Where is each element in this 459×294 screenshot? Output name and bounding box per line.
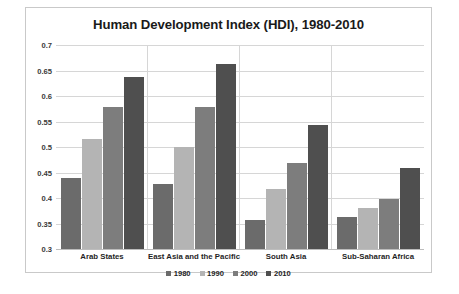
x-axis-category-label: East Asia and the Pacific: [148, 252, 240, 261]
bar[interactable]: [358, 208, 378, 249]
bar-group-bars: [56, 45, 148, 249]
bar[interactable]: [287, 163, 307, 249]
chart-legend: 1980199020002010: [26, 269, 431, 278]
bar-group-bars: [332, 45, 424, 249]
bar-group-bars: [240, 45, 332, 249]
legend-item[interactable]: 1990: [200, 269, 224, 278]
y-axis-tick-label: 0.45: [37, 168, 52, 177]
bar[interactable]: [337, 217, 357, 249]
bar[interactable]: [153, 184, 173, 249]
bar[interactable]: [379, 199, 399, 249]
legend-item[interactable]: 2010: [266, 269, 290, 278]
bar[interactable]: [266, 189, 286, 249]
y-axis-tick-label: 0.55: [37, 117, 52, 126]
bar[interactable]: [400, 168, 420, 249]
legend-item[interactable]: 1980: [166, 269, 190, 278]
bar-group: [56, 45, 148, 249]
bar[interactable]: [174, 147, 194, 249]
legend-item[interactable]: 2000: [233, 269, 257, 278]
plot-area: 0.30.350.40.450.50.550.60.650.7: [56, 45, 424, 250]
bar-group: [240, 45, 332, 249]
bar[interactable]: [82, 139, 102, 249]
figure-caption: [0, 281, 459, 290]
bar[interactable]: [124, 77, 144, 249]
legend-swatch-icon: [266, 271, 271, 276]
legend-swatch-icon: [200, 271, 205, 276]
x-axis-category-label: Arab States: [56, 252, 148, 261]
x-axis-category-label: South Asia: [240, 252, 332, 261]
y-axis-tick-label: 0.35: [37, 219, 52, 228]
chart-title: Human Development Index (HDI), 1980-2010: [26, 17, 431, 32]
bar[interactable]: [103, 107, 123, 249]
bar[interactable]: [195, 107, 215, 249]
y-axis-tick-label: 0.5: [41, 143, 52, 152]
bar[interactable]: [245, 220, 265, 249]
bar-group: [332, 45, 424, 249]
legend-swatch-icon: [233, 271, 238, 276]
y-axis-tick-label: 0.3: [41, 245, 52, 254]
legend-label: 1980: [174, 269, 191, 278]
legend-swatch-icon: [166, 271, 171, 276]
y-axis-tick-label: 0.6: [41, 92, 52, 101]
y-axis-tick-label: 0.7: [41, 41, 52, 50]
x-axis-category-label: Sub-Saharan Africa: [332, 252, 424, 261]
bar[interactable]: [308, 125, 328, 249]
bar-group: [148, 45, 240, 249]
y-axis-tick-label: 0.4: [41, 194, 52, 203]
bar[interactable]: [61, 178, 81, 249]
chart-frame: Human Development Index (HDI), 1980-2010…: [25, 7, 432, 273]
x-axis-category-labels: Arab StatesEast Asia and the PacificSout…: [56, 252, 424, 261]
y-axis-tick-label: 0.65: [37, 66, 52, 75]
bars-layer: [56, 45, 424, 249]
bar-group-bars: [148, 45, 240, 249]
bar[interactable]: [216, 64, 236, 249]
legend-label: 2000: [241, 269, 258, 278]
legend-label: 2010: [274, 269, 291, 278]
legend-label: 1990: [207, 269, 224, 278]
